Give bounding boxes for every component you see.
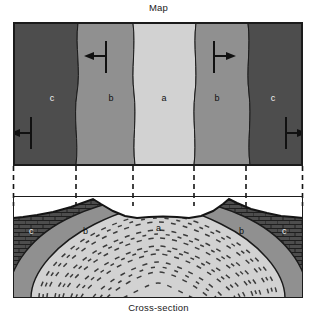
map-drawing: c b a b c	[14, 23, 302, 165]
section-label-a-core: a	[156, 223, 161, 233]
cross-section-drawing: c b a b c	[13, 196, 303, 298]
cross-section-title: Cross-section	[0, 302, 317, 313]
map-title: Map	[0, 2, 317, 13]
map-band-c-left	[14, 23, 78, 165]
map-panel: c b a b c	[13, 22, 303, 166]
section-label-c-right: c	[282, 226, 287, 236]
map-label-a-core: a	[161, 93, 166, 103]
section-label-b-left: b	[83, 226, 88, 236]
map-label-b-right: b	[214, 93, 219, 103]
section-label-c-left: c	[29, 226, 34, 236]
section-label-b-right: b	[239, 226, 244, 236]
map-label-b-left: b	[108, 93, 113, 103]
cross-section-panel: c b a b c	[13, 196, 303, 298]
geology-figure: Map	[0, 0, 317, 318]
map-label-c-left: c	[50, 93, 55, 103]
map-band-b-right	[194, 23, 250, 165]
map-label-c-right: c	[271, 93, 276, 103]
